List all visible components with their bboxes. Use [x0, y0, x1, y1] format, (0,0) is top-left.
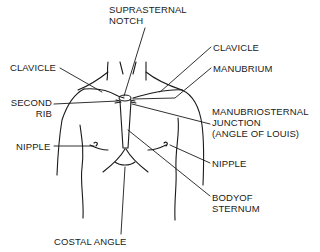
- label-line: RIB: [8, 108, 52, 119]
- label-nipple-left: NIPPLE: [16, 141, 50, 152]
- leader-second-rib: [54, 101, 118, 104]
- right-pectoral-line: [148, 145, 166, 150]
- leader-manubriosternal-junction: [132, 104, 210, 124]
- leader-clavicle-right: [160, 47, 211, 92]
- neck-left-outline: [107, 62, 108, 80]
- clavicle-right-bone: [133, 90, 182, 98]
- label-line: (ANGLE OF LOUIS): [212, 128, 309, 139]
- label-body-of-sternum: BODYOF STERNUM: [212, 192, 260, 214]
- label-costal-angle: COSTAL ANGLE: [54, 236, 126, 247]
- label-suprasternal-notch: SUPRASTERNAL NOTCH: [109, 4, 187, 26]
- left-chest-contour: [80, 125, 83, 218]
- label-clavicle-right: CLAVICLE: [213, 42, 259, 53]
- neck-muscle-left: [120, 62, 123, 74]
- label-second-rib: SECOND RIB: [8, 97, 52, 119]
- leader-suprasternal-notch: [124, 28, 145, 96]
- left-shoulder-arm-outline: [57, 89, 84, 175]
- leader-costal-angle: [121, 167, 125, 234]
- label-line: STERNUM: [212, 203, 260, 214]
- clavicle-left-bone: [84, 89, 124, 98]
- leader-body-of-sternum: [128, 130, 210, 196]
- label-line: BODYOF: [212, 192, 260, 203]
- label-nipple-right: NIPPLE: [212, 158, 246, 169]
- costal-margin-right: [126, 149, 148, 172]
- label-line: SUPRASTERNAL: [109, 4, 187, 15]
- leader-lines: [54, 28, 211, 234]
- sternum-outline: [120, 101, 131, 148]
- label-clavicle-left: CLAVICLE: [10, 62, 56, 73]
- neck-muscle-right: [133, 62, 136, 74]
- label-line: SECOND: [8, 97, 52, 108]
- abdomen-curve: [115, 162, 135, 165]
- right-shoulder-arm-outline: [182, 90, 204, 185]
- label-manubriosternal-junction: MANUBRIOSTERNAL JUNCTION (ANGLE OF LOUIS…: [212, 106, 309, 139]
- costal-margin-left: [103, 149, 125, 172]
- suprasternal-notch-mark: [119, 95, 131, 101]
- trapezius-right: [146, 72, 182, 90]
- label-line: NOTCH: [109, 15, 187, 26]
- label-line: MANUBRIOSTERNAL: [212, 106, 309, 117]
- label-line: JUNCTION: [212, 117, 309, 128]
- label-manubrium: MANUBRIUM: [213, 63, 272, 74]
- nipple-left-mark: [94, 142, 97, 146]
- chest-landmarks-diagram: SUPRASTERNAL NOTCH CLAVICLE CLAVICLE MAN…: [0, 0, 320, 252]
